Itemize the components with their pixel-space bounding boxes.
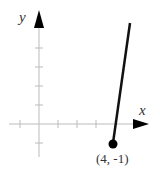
coordinate-graph: y x (4, -1) <box>0 0 160 176</box>
point-label: (4, -1) <box>96 151 129 166</box>
x-axis-label: x <box>138 102 146 118</box>
y-axis-arrow-icon <box>34 10 44 28</box>
y-axis-label: y <box>17 9 26 25</box>
ray-line <box>113 23 130 143</box>
endpoint-dot <box>109 140 118 149</box>
x-axis-arrow-icon <box>133 119 149 129</box>
